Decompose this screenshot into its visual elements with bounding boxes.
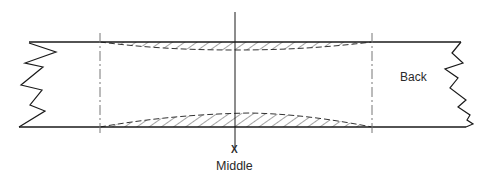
cross-section-diagram [0,0,494,180]
right-break-zigzag [445,42,473,127]
back-label: Back [400,71,427,83]
bottom-hatched-region [100,113,372,127]
middle-marker: X [231,145,238,155]
left-break-zigzag [19,43,56,127]
middle-label: Middle [216,160,253,173]
